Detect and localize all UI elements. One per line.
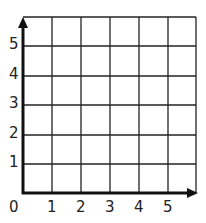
y-tick-3: 3 bbox=[9, 96, 19, 111]
coordinate-grid bbox=[0, 0, 206, 223]
x-tick-4: 4 bbox=[134, 200, 144, 215]
origin-label: 0 bbox=[9, 200, 19, 215]
y-tick-2: 2 bbox=[9, 126, 19, 141]
y-tick-1: 1 bbox=[9, 155, 19, 170]
x-tick-1: 1 bbox=[47, 200, 57, 215]
y-tick-4: 4 bbox=[9, 67, 19, 82]
y-axis-arrow-icon bbox=[18, 17, 28, 28]
x-tick-2: 2 bbox=[76, 200, 86, 215]
x-tick-3: 3 bbox=[105, 200, 115, 215]
y-tick-5: 5 bbox=[9, 37, 19, 52]
x-tick-5: 5 bbox=[163, 200, 173, 215]
